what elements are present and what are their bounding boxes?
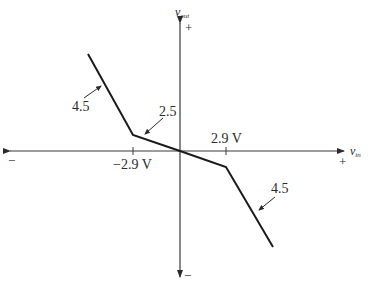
diagram-svg: vout + − vin + − −2.9 V 2.9 V 4.5 2.5 4.…	[0, 0, 371, 291]
slope-arrow-upper-left	[84, 86, 101, 98]
x-axis-negative-sign: −	[8, 153, 15, 168]
slope-arrow-lower-right	[259, 197, 275, 210]
slope-label-upper-left: 4.5	[72, 99, 90, 114]
y-axis-positive-sign: +	[185, 20, 192, 35]
slope-label-lower-right: 4.5	[271, 181, 289, 196]
y-axis-negative-sign: −	[184, 268, 191, 283]
transfer-characteristic-diagram: vout + − vin + − −2.9 V 2.9 V 4.5 2.5 4.…	[0, 0, 371, 291]
x-axis-label: vin	[350, 144, 361, 159]
tick-label-left: −2.9 V	[113, 157, 152, 172]
x-axis-positive-sign: +	[339, 154, 346, 169]
slope-arrow-middle	[145, 118, 163, 134]
y-axis-label: vout	[175, 5, 190, 20]
tick-label-right: 2.9 V	[211, 131, 242, 146]
slope-label-middle: 2.5	[159, 104, 177, 119]
